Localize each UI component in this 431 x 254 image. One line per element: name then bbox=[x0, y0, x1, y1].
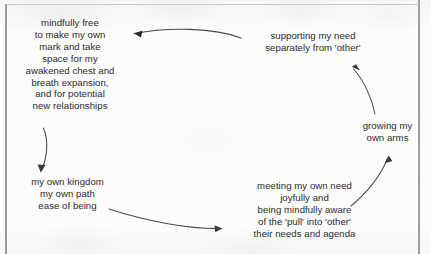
node-mindfully-free: mindfully free to make my own mark and t… bbox=[10, 17, 130, 112]
arrow-left-down bbox=[38, 128, 47, 173]
arrow-top-right-to-left-head bbox=[134, 31, 143, 38]
diagram-canvas: mindfully free to make my own mark and t… bbox=[0, 0, 431, 254]
node-my-own-kingdom: my own kingdom my own path ease of being bbox=[11, 176, 124, 212]
arrow-right-up-to-top-head bbox=[352, 64, 360, 70]
node-supporting-my-need: supporting my need separately from 'othe… bbox=[243, 30, 383, 54]
frame-border-left bbox=[5, 4, 7, 254]
arrow-bottom-left-to-right-head bbox=[215, 225, 223, 232]
arrow-bottom-left-to-right bbox=[109, 209, 223, 232]
node-meeting-my-own-need: meeting my own need joyfully and being m… bbox=[232, 180, 377, 240]
arrow-bottom-right-up-head bbox=[385, 156, 393, 164]
arrow-left-down-line bbox=[41, 128, 47, 171]
arrow-top-right-to-left bbox=[134, 29, 241, 38]
frame-border-top bbox=[6, 4, 419, 5]
node-growing-my-own-arms: growing my own arms bbox=[355, 120, 420, 144]
arrow-bottom-left-to-right-line bbox=[109, 209, 220, 229]
arrow-right-up-to-top bbox=[352, 64, 375, 114]
arrow-left-down-head bbox=[38, 164, 46, 172]
arrow-right-up-to-top-line bbox=[354, 69, 376, 114]
arrow-top-right-to-left-line bbox=[134, 29, 241, 38]
